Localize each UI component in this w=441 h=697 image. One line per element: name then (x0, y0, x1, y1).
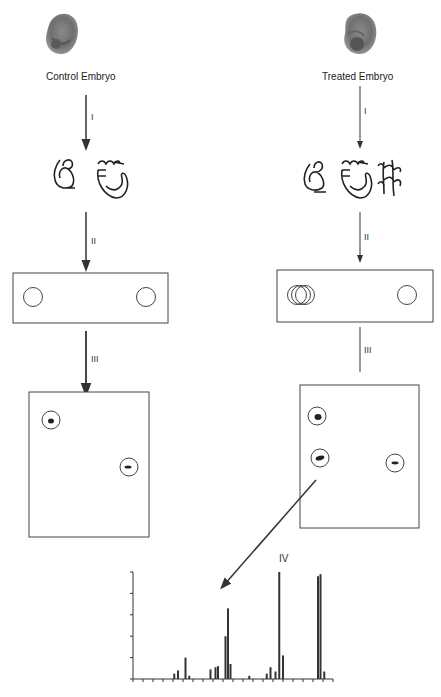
spectrum-peak (275, 672, 277, 679)
step-3-label-treated: III (364, 345, 372, 355)
treated-embryo-label: Treated Embryo (322, 71, 393, 82)
spectrum-peak (278, 572, 280, 679)
spectrum-peak (210, 669, 212, 679)
control-proteins-icon (54, 160, 127, 198)
spectrum-peak (320, 574, 322, 679)
control-embryo-label: Control Embryo (46, 71, 115, 82)
treated-gel-strip (277, 270, 433, 322)
step-2-label-control: II (91, 236, 96, 246)
spectrum-peak (282, 655, 284, 679)
spectrum-peak (217, 666, 219, 679)
step-4-label: IV (279, 553, 288, 564)
spectrum-peak (188, 676, 190, 679)
treated-embryo-image (344, 13, 376, 54)
mass-spectrum-chart (130, 572, 333, 682)
spectrum-peak (317, 576, 319, 679)
treated-proteins-icon (304, 160, 400, 198)
control-embryo-image (46, 14, 78, 54)
spectrum-peak (227, 608, 229, 679)
spectrum-peak (173, 674, 175, 679)
step-1-label-control: I (91, 112, 94, 122)
arrow-step-4 (224, 480, 316, 585)
spectrum-peak (266, 674, 268, 679)
control-2d-gel (29, 392, 149, 537)
spectrum-peak (248, 676, 250, 679)
spectrum-peak (270, 667, 272, 679)
spectrum-peak (177, 670, 179, 679)
treated-2d-gel (300, 385, 419, 528)
step-2-label-treated: II (364, 232, 369, 242)
spectrum-peak (230, 664, 232, 679)
control-gel-strip (13, 273, 168, 323)
spectrum-peak (215, 667, 217, 679)
step-3-label-control: III (91, 354, 99, 364)
workflow-diagram (0, 0, 441, 697)
step-1-label-treated: I (364, 106, 367, 116)
spectrum-peak (185, 658, 187, 679)
spectrum-peak (323, 672, 325, 679)
spectrum-peak (225, 636, 227, 679)
